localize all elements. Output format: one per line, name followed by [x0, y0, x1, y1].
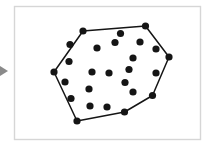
interior-point	[111, 39, 118, 46]
figure-canvas	[0, 0, 211, 147]
hull-vertex-point	[50, 68, 57, 75]
hull-vertex-point	[165, 53, 172, 60]
interior-point	[65, 58, 72, 65]
interior-point	[152, 45, 159, 52]
interior-point	[86, 102, 93, 109]
interior-point	[105, 69, 112, 76]
interior-point	[117, 30, 124, 37]
interior-point	[136, 38, 143, 45]
figure-container	[0, 0, 211, 147]
interior-point	[129, 88, 136, 95]
interior-point	[67, 95, 74, 102]
hull-vertex-point	[79, 27, 86, 34]
interior-point	[61, 78, 68, 85]
hull-vertex-point	[149, 92, 156, 99]
hull-vertex-point	[73, 117, 80, 124]
interior-point	[93, 44, 100, 51]
hull-vertex-point	[142, 22, 149, 29]
interior-point	[66, 41, 73, 48]
interior-point	[103, 103, 110, 110]
hull-vertex-point	[121, 108, 128, 115]
interior-point	[88, 68, 95, 75]
interior-point	[125, 66, 132, 73]
interior-point	[85, 85, 92, 92]
interior-point	[129, 54, 136, 61]
interior-point	[152, 69, 159, 76]
interior-point	[121, 79, 128, 86]
